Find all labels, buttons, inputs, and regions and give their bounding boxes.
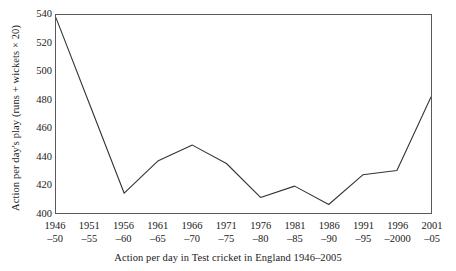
x-axis-title: Action per day in Test cricket in Englan… <box>0 252 456 263</box>
cropped-caption-remnant <box>0 0 456 5</box>
y-tick-label: 460 <box>26 123 52 133</box>
y-tick-label: 540 <box>26 9 52 19</box>
y-axis-title: Action per day's play (runs + wickets × … <box>8 8 24 228</box>
x-axis-tick-labels: 1946–501951–551956–601961–651966–701971–… <box>55 219 432 251</box>
y-tick-label: 500 <box>26 66 52 76</box>
data-line-svg <box>56 15 431 213</box>
chart-figure: Action per day's play (runs + wickets × … <box>0 0 456 271</box>
y-tick-label: 520 <box>26 38 52 48</box>
x-tick-label-start-year: 2001 <box>409 219 455 232</box>
y-tick-label: 420 <box>26 180 52 190</box>
data-series-line <box>56 18 431 205</box>
x-tick-label: 2001–05 <box>409 219 455 245</box>
y-tick-label: 480 <box>26 95 52 105</box>
y-tick-label: 400 <box>26 209 52 219</box>
plot-area <box>55 14 432 214</box>
x-tick-label-end-year: –05 <box>409 232 455 245</box>
y-tick-label: 440 <box>26 152 52 162</box>
